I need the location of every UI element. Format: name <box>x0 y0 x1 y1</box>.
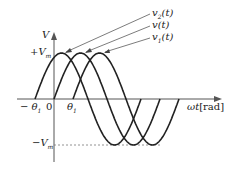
neg-theta-label: − θ1 <box>20 102 41 114</box>
label-v1: v1(t) <box>152 32 173 44</box>
leader-v2 <box>66 14 150 52</box>
x-axis-label: ωt[rad] <box>187 102 224 112</box>
y-axis-label: V <box>42 30 49 40</box>
leader-v1 <box>105 38 150 52</box>
origin-label: 0 <box>46 102 52 112</box>
neg-vm-label: −Vm <box>32 138 53 150</box>
y-axis-arrow-icon <box>51 32 57 40</box>
pos-theta-label: θ1 <box>67 102 77 114</box>
leader-v1-arrow-icon <box>104 49 110 53</box>
pos-vm-label: +Vm <box>30 47 51 59</box>
label-v: v(t) <box>152 20 169 30</box>
waveform-diagram: V +Vm −Vm − θ1 0 θ1 ωt[rad] v2(t) v(t) v… <box>0 0 233 175</box>
leader-v2-arrow-icon <box>65 48 72 53</box>
leader-v-arrow-icon <box>85 48 92 53</box>
